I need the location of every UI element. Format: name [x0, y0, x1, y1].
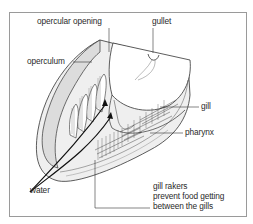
- label-gill: gill: [201, 102, 211, 112]
- label-opercular-opening: opercular opening: [37, 17, 102, 27]
- label-operculum: operculum: [27, 57, 65, 67]
- label-water: water: [30, 186, 50, 196]
- label-pharynx: pharynx: [185, 128, 214, 138]
- label-gullet: gullet: [152, 17, 171, 27]
- label-gill-rakers-line3: between the gills: [153, 202, 213, 212]
